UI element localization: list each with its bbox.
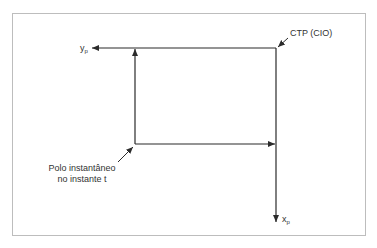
x-axis-label-subscript: p xyxy=(287,219,291,225)
pole-motion-diagram: CTP (CIO) yp xp Polo instantâneo no inst… xyxy=(0,0,377,248)
ctp-pointer-arrow xyxy=(278,38,288,47)
pole-label-line2: no instante t xyxy=(57,174,107,184)
ctp-label: CTP (CIO) xyxy=(290,28,332,38)
pole-label-line1: Polo instantâneo xyxy=(48,163,115,173)
y-axis-label-subscript: p xyxy=(85,48,89,54)
pole-pointer-arrow xyxy=(118,147,133,162)
x-axis-label: xp xyxy=(282,214,291,225)
y-axis-label: yp xyxy=(80,43,89,54)
